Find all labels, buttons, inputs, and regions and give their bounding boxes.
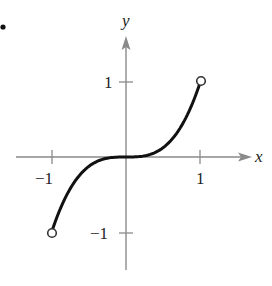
y-tick-label-pos1: 1 xyxy=(104,73,113,92)
x-tick-label-pos1: 1 xyxy=(196,169,205,188)
bullet-marker xyxy=(0,24,5,29)
cubic-function-graph: y x −1 1 1 −1 xyxy=(0,0,272,286)
open-endpoint-lower xyxy=(48,229,57,238)
y-axis-label: y xyxy=(120,11,130,30)
x-axis-label: x xyxy=(254,147,263,166)
x-tick-label-neg1: −1 xyxy=(35,169,53,188)
y-tick-label-neg1: −1 xyxy=(90,224,108,243)
open-endpoint-upper xyxy=(197,77,206,86)
